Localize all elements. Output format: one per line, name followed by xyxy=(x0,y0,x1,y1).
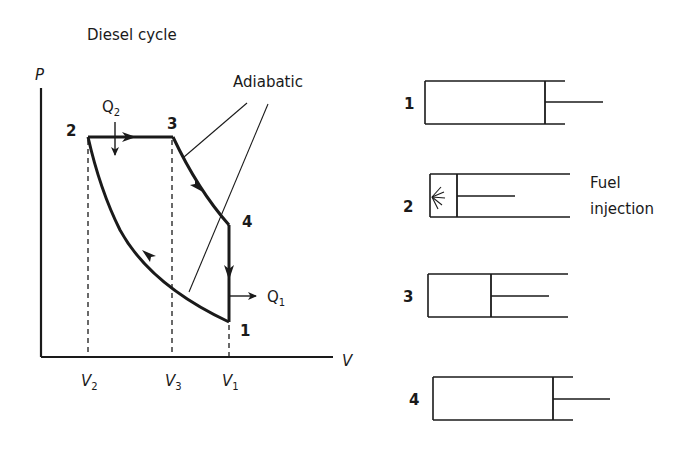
v2-label: V2 xyxy=(81,372,98,392)
cylinder-1-label: 1 xyxy=(404,95,414,113)
cylinder-2-label: 2 xyxy=(403,198,413,216)
cylinder-1: 1 xyxy=(404,81,603,124)
point-3-label: 3 xyxy=(167,115,177,133)
process-1-2 xyxy=(88,137,229,322)
fuel-injection-label-line1: Fuel xyxy=(590,174,621,192)
process-3-4 xyxy=(173,137,229,225)
cylinder-4: 4 xyxy=(409,377,610,420)
v3-label: V3 xyxy=(165,372,182,392)
q2-label: Q2 xyxy=(102,98,120,118)
arrow-1-2-icon xyxy=(142,250,156,262)
point-2-label: 2 xyxy=(66,122,76,140)
pv-diagram: P V V2 V3 V1 Q2 Q1 2 3 4 1 Adiabati xyxy=(35,66,354,392)
fuel-injection-label-line2: injection xyxy=(590,200,654,218)
v1-label: V1 xyxy=(222,372,239,392)
q1-label: Q1 xyxy=(267,288,285,308)
adiabatic-leader-1 xyxy=(184,103,247,157)
cylinder-2: 2 Fuel injection xyxy=(403,174,654,218)
cylinder-3-label: 3 xyxy=(403,288,413,306)
v-axis-label: V xyxy=(342,352,354,370)
p-axis-label: P xyxy=(35,66,45,84)
fuel-spray-icon xyxy=(432,187,445,209)
point-4-label: 4 xyxy=(242,213,252,231)
diesel-cycle-figure: Diesel cycle P V V2 V3 V1 Q2 Q1 xyxy=(0,0,689,455)
figure-title: Diesel cycle xyxy=(87,26,177,44)
cylinder-3: 3 xyxy=(403,274,568,317)
point-1-label: 1 xyxy=(240,322,250,340)
adiabatic-label: Adiabatic xyxy=(233,73,303,91)
cylinder-4-label: 4 xyxy=(409,391,419,409)
